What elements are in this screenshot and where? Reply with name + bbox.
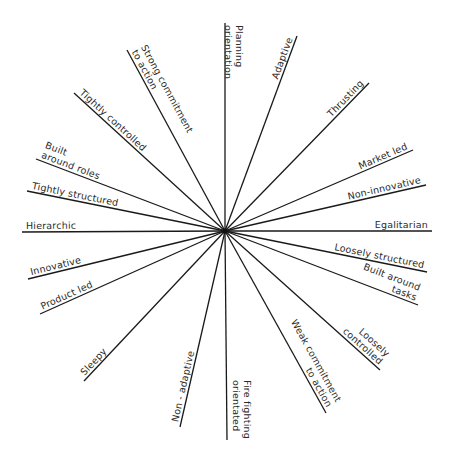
label-text: Adaptive [269, 36, 294, 81]
spoke-label-tightly-controlled: Tightly controlled [77, 86, 149, 153]
label-text: Product led [39, 279, 94, 312]
spoke-label-sleepy: Sleepy [78, 346, 109, 378]
label-text: Sleepy [78, 346, 109, 378]
radial-spoke-diagram: PlanningorientationAdaptiveThrustingMark… [0, 0, 451, 457]
label-text: Market led [357, 141, 409, 172]
label-text: Hierarchic [26, 220, 76, 231]
label-text: Planning [234, 25, 245, 68]
label-text: orientation [223, 25, 234, 79]
spoke-label-strong-commitment-to-action: Strong commitmentto action [130, 43, 196, 140]
spoke-line-hierarchic [22, 231, 225, 232]
spoke-label-product-led: Product led [39, 279, 94, 312]
spoke-label-built-around-roles: Builtaround roles [40, 139, 105, 181]
spoke-line-fire-fighting-orientated [225, 231, 227, 440]
spoke-label-egalitarian: Egalitarian [375, 219, 428, 230]
center-hub [222, 228, 227, 233]
label-text: Innovative [29, 254, 82, 277]
spoke-label-planning-orientation: Planningorientation [223, 25, 245, 79]
spoke-line-innovative [28, 231, 225, 279]
spoke-label-market-led: Market led [357, 141, 409, 172]
spoke-label-fire-fighting-orientated: Fire fightingorientated [231, 380, 253, 439]
label-text: orientated [231, 380, 242, 431]
spoke-label-hierarchic: Hierarchic [26, 220, 76, 231]
spoke-line-loosely-structured [225, 231, 427, 272]
label-text: Non - adaptive [169, 350, 196, 423]
spoke-label-thrusting: Thrusting [324, 77, 365, 119]
spoke-label-innovative: Innovative [29, 254, 82, 277]
spoke-label-adaptive: Adaptive [269, 36, 294, 81]
spoke-line-non-adaptive [180, 231, 225, 427]
spoke-label-weak-commitment-to-action: Weak commitmentto action [280, 317, 344, 409]
spoke-label-non-adaptive: Non - adaptive [169, 350, 196, 423]
label-text: Fire fighting [242, 380, 253, 439]
spoke-line-thrusting [225, 83, 369, 231]
spoke-line-sleepy [84, 231, 225, 381]
label-text: Tightly controlled [77, 86, 149, 153]
spoke-line-product-led [40, 231, 225, 314]
label-text: Thrusting [324, 77, 365, 119]
label-text: around roles [40, 149, 102, 181]
label-text: Egalitarian [375, 219, 428, 230]
spoke-line-built-around-tasks [225, 231, 418, 305]
spoke-line-tightly-controlled [74, 93, 225, 231]
